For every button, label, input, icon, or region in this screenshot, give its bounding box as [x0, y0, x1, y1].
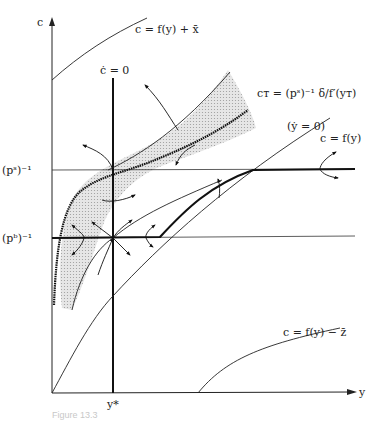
y-axis-label: c	[37, 16, 43, 29]
shaded-region	[60, 70, 256, 310]
phase-diagram: c y y* (pˢ)⁻¹ (pᵇ)⁻¹ c = f(y) + x̄ ċ = 0…	[0, 0, 383, 423]
pb-inverse-label: (pᵇ)⁻¹	[2, 232, 32, 245]
x-axis-label: y	[358, 386, 366, 399]
curve-f-label: c = f(y)	[320, 132, 361, 145]
x-axis	[52, 392, 354, 393]
curve-f	[52, 118, 330, 393]
x-axis-arrow-icon	[347, 389, 357, 395]
ps-inverse-label: (pˢ)⁻¹	[2, 164, 32, 177]
y-axis-arrow-icon	[49, 17, 55, 26]
c-dot-zero-label: ċ = 0	[100, 64, 129, 77]
curve-f-plus-x-label: c = f(y) + x̄	[135, 23, 199, 36]
c-T-label: cᴛ = (pˢ)⁻¹ δ/f′(yᴛ)	[257, 87, 356, 100]
x-tick-y-star: y*	[106, 398, 119, 411]
figure-caption: Figure 13.3	[52, 410, 98, 420]
curve-f-minus-z-label: c = f(y) − z̄	[283, 326, 346, 339]
